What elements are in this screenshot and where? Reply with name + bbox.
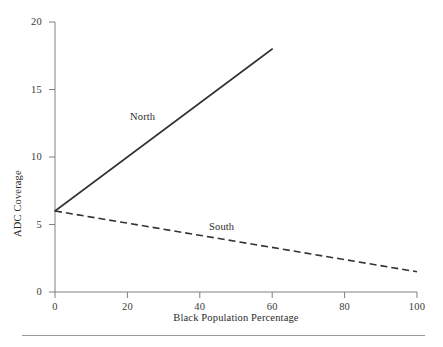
y-tick-label-5: 5 xyxy=(26,219,42,230)
x-axis-title: Black Population Percentage xyxy=(173,312,298,323)
y-tick-marks xyxy=(49,22,55,292)
series-label-south: South xyxy=(209,221,234,232)
x-tick-label-40: 40 xyxy=(194,302,205,313)
x-tick-label-60: 60 xyxy=(267,302,278,313)
plot-canvas xyxy=(0,0,443,347)
x-tick-label-0: 0 xyxy=(52,302,57,313)
y-tick-label-0: 0 xyxy=(26,287,42,298)
x-tick-marks xyxy=(55,292,417,298)
footer-divider xyxy=(22,335,425,336)
series-line-south xyxy=(55,211,417,272)
x-tick-label-100: 100 xyxy=(409,302,425,313)
y-tick-label-10: 10 xyxy=(26,152,42,163)
series-label-north: North xyxy=(130,111,155,122)
x-tick-label-20: 20 xyxy=(122,302,133,313)
series-line-north xyxy=(55,49,272,211)
y-axis-title: ADC Coverage xyxy=(12,117,23,237)
y-tick-label-20: 20 xyxy=(26,17,42,28)
y-tick-label-15: 15 xyxy=(26,84,42,95)
x-tick-label-80: 80 xyxy=(339,302,350,313)
chart-figure: 0 5 10 15 20 0 20 40 60 80 100 Black Pop… xyxy=(0,0,443,347)
